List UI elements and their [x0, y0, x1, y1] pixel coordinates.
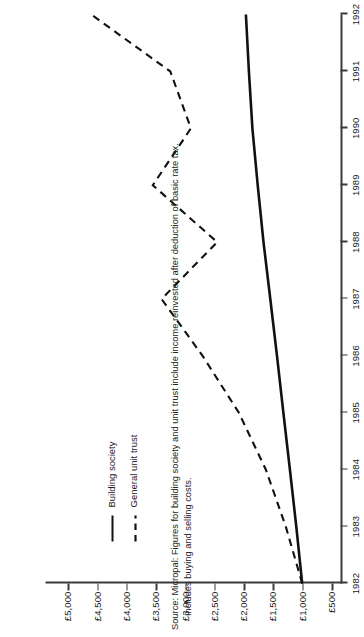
category-tick-label: 1984 — [349, 457, 360, 481]
value-tick — [67, 583, 69, 590]
category-tick — [340, 126, 347, 128]
legend-label-general-unit-trust: General unit trust — [127, 434, 138, 507]
value-tick-label: £4,500 — [91, 591, 102, 637]
value-tick-label: £3,500 — [149, 591, 160, 637]
category-tick-label: 1990 — [349, 116, 360, 140]
category-tick-label: 1985 — [349, 400, 360, 424]
category-tick-label: 1987 — [349, 287, 360, 311]
value-tick-label: £3,000 — [179, 591, 190, 637]
value-tick-label: £2,500 — [208, 591, 219, 637]
value-tick — [97, 583, 99, 590]
value-tick — [126, 583, 128, 590]
series-building-society — [245, 14, 301, 583]
category-tick-label: 1992 — [349, 2, 360, 26]
value-tick — [185, 583, 187, 590]
value-tick-label: £5,000 — [61, 591, 72, 637]
category-tick — [340, 183, 347, 185]
category-tick-label: 1991 — [349, 59, 360, 83]
series-layer — [0, 0, 364, 637]
value-tick-label: £1,000 — [296, 591, 307, 637]
category-tick — [340, 354, 347, 356]
category-tick-label: 1989 — [349, 173, 360, 197]
category-tick — [340, 411, 347, 413]
value-tick — [243, 583, 245, 590]
value-tick-label: £1,500 — [266, 591, 277, 637]
category-tick — [340, 69, 347, 71]
rotated-chart-canvas: 1982198319841985198619871988198919901991… — [0, 0, 364, 637]
category-tick — [340, 240, 347, 242]
chart-root: 1982198319841985198619871988198919901991… — [0, 0, 364, 637]
category-tick — [340, 297, 347, 299]
value-tick — [214, 583, 216, 590]
value-tick — [155, 583, 157, 590]
category-tick-label: 1988 — [349, 230, 360, 254]
value-tick — [302, 583, 304, 590]
category-tick — [340, 525, 347, 527]
value-tick-label: £4,000 — [120, 591, 131, 637]
value-tick-label: £2,000 — [237, 591, 248, 637]
legend-swatch-solid — [111, 515, 113, 541]
value-tick — [272, 583, 274, 590]
category-tick — [340, 13, 347, 15]
value-tick-label: £500 — [325, 591, 336, 637]
category-tick-label: 1982 — [349, 571, 360, 595]
category-tick-label: 1986 — [349, 343, 360, 367]
value-tick — [331, 583, 333, 590]
plot-area: 1982198319841985198619871988198919901991… — [0, 0, 364, 637]
legend-swatch-dashed — [133, 511, 137, 541]
category-tick — [340, 468, 347, 470]
legend-label-building-society: Building society — [105, 441, 116, 507]
category-tick — [340, 582, 347, 584]
category-tick-label: 1983 — [349, 514, 360, 538]
